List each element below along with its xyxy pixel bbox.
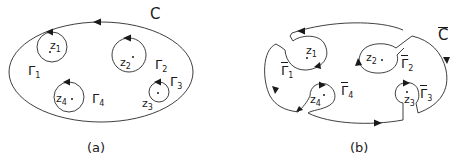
label-c-bar: C [438, 27, 448, 43]
label-z3: z3 [404, 94, 415, 108]
arrow-icon [374, 120, 382, 127]
label-gamma-4: Γ4 [92, 92, 104, 108]
caption-b: (b) [350, 141, 368, 154]
figure: C z1 z2 z3 z4 Γ1 Γ2 Γ3 Γ4 (a) C z1 z2 z3… [0, 0, 460, 167]
caption-a: (a) [87, 141, 105, 154]
label-gamma-4-bar: Γ4 [341, 84, 353, 100]
label-c: C [150, 7, 160, 22]
arrow-icon [272, 86, 279, 94]
label-gamma-1: Γ1 [28, 64, 40, 80]
point-z4 [71, 98, 73, 100]
label-gamma-2: Γ2 [155, 58, 167, 74]
arrow-icon [46, 29, 53, 36]
label-z4: z4 [56, 93, 67, 107]
point-z2 [381, 59, 383, 61]
outer-contour-top-arc [290, 23, 403, 41]
arrow-icon [297, 28, 305, 35]
label-z4: z4 [310, 94, 321, 108]
contour-diagram [0, 0, 460, 167]
arrow-icon [123, 35, 131, 42]
label-gamma-2-bar: Γ2 [401, 57, 413, 73]
arrow-icon [63, 79, 70, 86]
label-z1: z1 [306, 45, 317, 59]
point-z4 [323, 94, 325, 96]
label-z3: z3 [142, 98, 153, 112]
point-z3 [157, 92, 159, 94]
arrow-icon [403, 80, 410, 87]
outer-contour-bottom-arc [308, 103, 403, 123]
point-z2 [132, 56, 134, 58]
label-z2: z2 [366, 52, 377, 66]
label-gamma-3-bar: Γ3 [420, 87, 432, 103]
arrow-icon [154, 79, 161, 86]
label-z2: z2 [120, 57, 131, 71]
label-gamma-3: Γ3 [170, 75, 182, 91]
arrow-icon [319, 82, 326, 89]
arrow-icon [93, 19, 101, 26]
label-z1: z1 [50, 40, 61, 54]
arrow-icon [355, 58, 362, 66]
label-gamma-1-bar: Γ1 [281, 64, 293, 80]
